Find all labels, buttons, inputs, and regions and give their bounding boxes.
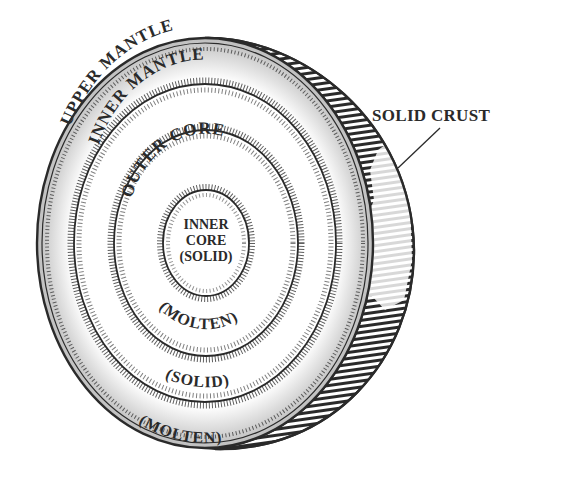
inner-core-label-line1: INNER [166,217,246,233]
crust-callout-line [398,128,440,168]
inner-core-state: (SOLID) [166,249,246,265]
inner-core-label-line2: CORE [166,233,246,249]
solid-crust-label: SOLID CRUST [372,106,490,126]
earth-layers-diagram: UPPER MANTLE INNER MANTLE OUTER CORE (MO… [0,0,579,478]
